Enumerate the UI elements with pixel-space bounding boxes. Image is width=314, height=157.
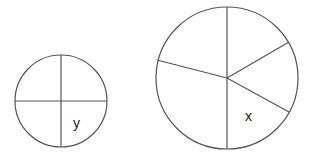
small-circle-label-y: y: [73, 115, 80, 131]
large-circle-left-divider: [157, 60, 227, 78]
diagram-canvas: y x: [0, 0, 314, 157]
large-circle-upper-right-divider: [227, 42, 289, 78]
large-circle-label-x: x: [245, 108, 252, 124]
large-circle-group: x: [156, 7, 298, 149]
large-circle-lower-right-divider: [227, 78, 289, 112]
small-circle-group: y: [15, 55, 107, 147]
